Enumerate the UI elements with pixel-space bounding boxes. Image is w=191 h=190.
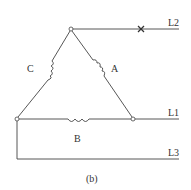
- winding-c-label: C: [27, 63, 34, 74]
- figure-caption: (b): [86, 173, 98, 185]
- line-l1-label: L1: [168, 107, 179, 118]
- node-top: [69, 27, 73, 31]
- winding-c: [18, 31, 70, 117]
- winding-a: [72, 31, 132, 117]
- delta-winding-diagram: C A B L2 L1 L3 (b): [0, 0, 191, 190]
- line-l3-label: L3: [168, 147, 179, 158]
- line-l2-label: L2: [168, 17, 179, 28]
- winding-a-label: A: [111, 63, 119, 74]
- winding-b-label: B: [74, 133, 81, 144]
- node-bottom-right: [131, 117, 135, 121]
- node-bottom-left: [15, 117, 19, 121]
- line-l3-wire: [17, 121, 179, 159]
- winding-b: [19, 119, 131, 122]
